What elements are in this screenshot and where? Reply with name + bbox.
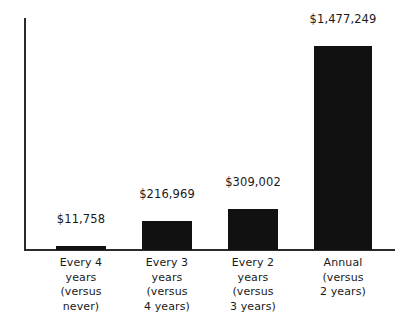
bar-value-label-annual: $1,477,249 bbox=[310, 12, 377, 26]
category-label-annual: Annual(versus2 years) bbox=[302, 256, 384, 300]
category-label-every-4-years: Every 4 years(versusnever) bbox=[44, 256, 118, 314]
plot-area: $11,758$216,969$309,002$1,477,249 bbox=[26, 18, 395, 250]
bar-chart: $11,758$216,969$309,002$1,477,249 Every … bbox=[0, 0, 417, 320]
bar-group-every-4-years: $11,758 bbox=[56, 18, 106, 250]
bar-every-4-years bbox=[56, 246, 106, 250]
bar-value-label-every-3-years: $216,969 bbox=[139, 187, 195, 201]
category-label-line: Annual bbox=[302, 256, 384, 271]
category-label-line: Every 2 years bbox=[216, 256, 290, 285]
category-label-line: (versus bbox=[130, 285, 204, 300]
bar-every-3-years bbox=[142, 221, 192, 250]
bar-group-every-2-years: $309,002 bbox=[228, 18, 278, 250]
category-label-line: (versus bbox=[216, 285, 290, 300]
bar-value-label-every-2-years: $309,002 bbox=[225, 175, 281, 189]
category-axis-labels: Every 4 years(versusnever)Every 3 years(… bbox=[26, 256, 395, 316]
bar-group-annual: $1,477,249 bbox=[314, 18, 372, 250]
bar-annual bbox=[314, 46, 372, 250]
bar-every-2-years bbox=[228, 209, 278, 250]
category-label-line: Every 4 years bbox=[44, 256, 118, 285]
category-label-every-2-years: Every 2 years(versus3 years) bbox=[216, 256, 290, 314]
category-label-line: 2 years) bbox=[302, 285, 384, 300]
category-label-line: never) bbox=[44, 300, 118, 315]
category-label-line: Every 3 years bbox=[130, 256, 204, 285]
bar-group-every-3-years: $216,969 bbox=[142, 18, 192, 250]
category-label-line: (versus bbox=[302, 271, 384, 286]
category-label-line: (versus bbox=[44, 285, 118, 300]
category-label-line: 3 years) bbox=[216, 300, 290, 315]
category-label-line: 4 years) bbox=[130, 300, 204, 315]
category-label-every-3-years: Every 3 years(versus4 years) bbox=[130, 256, 204, 314]
bar-value-label-every-4-years: $11,758 bbox=[57, 212, 105, 226]
